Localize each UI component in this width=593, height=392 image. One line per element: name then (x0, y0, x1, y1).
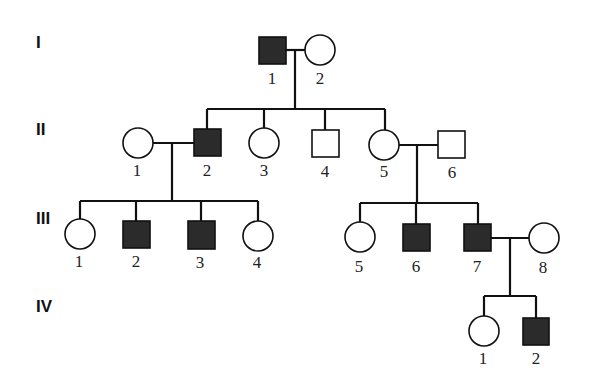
individual-number: 5 (355, 257, 364, 276)
individual-number: 1 (75, 252, 84, 271)
pedigree-diagram: I II III IV 1 2 (0, 0, 593, 392)
generation-label-III: III (36, 209, 50, 228)
generation-label-II: II (36, 120, 45, 139)
individual-II-5-unaffected-female (369, 130, 399, 160)
generation-label-I: I (36, 33, 41, 52)
individual-number: 2 (132, 252, 141, 271)
individual-number: 3 (196, 253, 205, 272)
individual-II-6-unaffected-male (438, 131, 465, 158)
individual-number: 5 (380, 162, 389, 181)
individual-number: 4 (321, 162, 330, 181)
individual-number: 1 (479, 349, 488, 368)
individual-number: 6 (448, 163, 457, 182)
generation-label-IV: IV (36, 297, 53, 316)
individual-IV-1-unaffected-female (469, 316, 499, 346)
individual-number: 7 (473, 257, 482, 276)
individual-number: 6 (412, 257, 421, 276)
individual-number: 1 (268, 69, 277, 88)
pedigree-lines (80, 50, 536, 318)
individual-III-7-affected-male (464, 224, 491, 251)
individual-I-1-affected-male (259, 37, 286, 64)
individual-number: 2 (203, 161, 212, 180)
individual-II-1-unaffected-female (123, 128, 153, 158)
individual-III-6-affected-male (403, 224, 430, 251)
individual-II-3-unaffected-female (249, 128, 279, 158)
individual-III-4-unaffected-female (243, 221, 273, 251)
individual-III-5-unaffected-female (345, 222, 375, 252)
individual-III-2-affected-male (123, 221, 150, 248)
individual-number: 3 (260, 161, 269, 180)
individual-III-1-unaffected-female (65, 219, 95, 249)
individual-number: 8 (539, 258, 548, 277)
individual-IV-2-affected-male (523, 318, 549, 345)
individual-number: 2 (532, 349, 541, 368)
individual-number: 2 (316, 69, 325, 88)
individual-number: 1 (133, 161, 142, 180)
individual-III-3-affected-male (188, 221, 215, 249)
individual-II-2-affected-male (194, 129, 221, 156)
individual-number: 4 (253, 253, 262, 272)
individual-I-2-unaffected-female (305, 35, 335, 65)
individual-II-4-unaffected-male (312, 130, 339, 157)
individual-III-8-unaffected-female (529, 223, 559, 253)
